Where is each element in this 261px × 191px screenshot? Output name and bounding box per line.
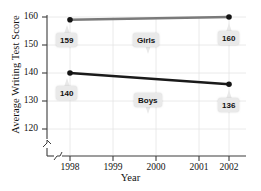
y-tick-label-120: 120 bbox=[12, 124, 38, 133]
y-axis-spine bbox=[43, 15, 51, 156]
chart-figure: Average Writing Test Score Year 160 150 … bbox=[0, 0, 261, 191]
data-point-girls-2002 bbox=[226, 14, 232, 20]
series-label-boys: Boys bbox=[134, 93, 162, 107]
data-label-girls-1998: 159 bbox=[56, 33, 77, 47]
x-tick-label-2001: 2001 bbox=[182, 162, 216, 172]
data-label-boys-1998: 140 bbox=[56, 86, 77, 100]
y-tick-label-150: 150 bbox=[12, 40, 38, 49]
data-label-boys-2002: 136 bbox=[218, 98, 239, 112]
x-tick-marks bbox=[70, 156, 229, 161]
y-tick-label-130: 130 bbox=[12, 96, 38, 105]
x-axis-spine bbox=[47, 152, 246, 160]
x-tick-label-2002: 2002 bbox=[212, 162, 246, 172]
x-tick-label-1998: 1998 bbox=[53, 162, 87, 172]
y-tick-label-140: 140 bbox=[12, 68, 38, 77]
data-point-girls-1998 bbox=[67, 17, 73, 23]
y-tick-marks bbox=[42, 17, 47, 129]
x-tick-label-1999: 1999 bbox=[96, 162, 130, 172]
series-line-girls bbox=[70, 17, 229, 20]
x-axis-title: Year bbox=[0, 172, 261, 183]
y-axis-break-mark bbox=[43, 140, 51, 147]
data-label-girls-2002: 160 bbox=[218, 31, 239, 45]
data-point-boys-1998 bbox=[67, 70, 73, 76]
data-point-boys-2002 bbox=[226, 81, 232, 87]
x-tick-label-2000: 2000 bbox=[139, 162, 173, 172]
series-line-boys bbox=[70, 73, 229, 84]
x-axis-break-mark bbox=[54, 152, 62, 160]
y-tick-label-160: 160 bbox=[12, 12, 38, 21]
series-label-girls: Girls bbox=[133, 33, 159, 47]
